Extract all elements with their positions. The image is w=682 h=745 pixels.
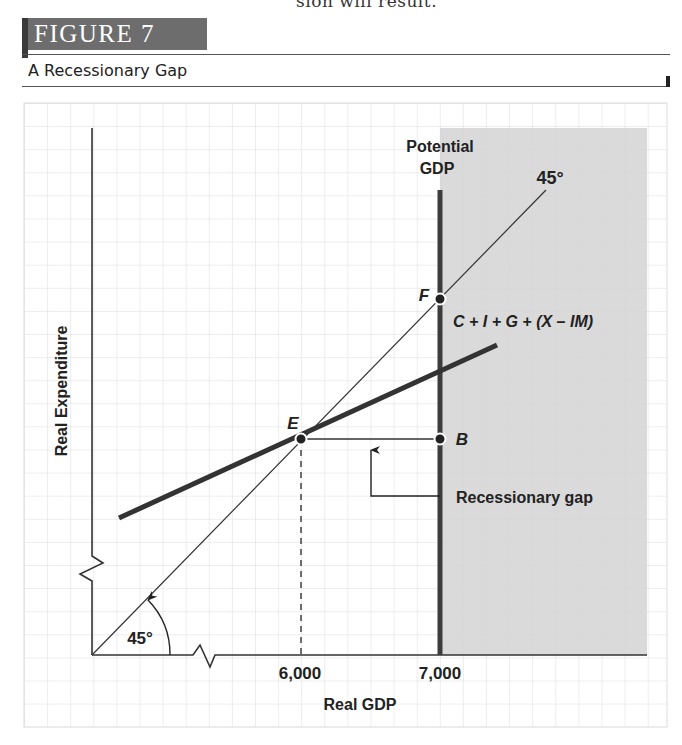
potential-label-line2: GDP: [420, 160, 455, 177]
x-tick-6000: 6,000: [279, 664, 322, 683]
aggregate-demand-label: C + I + G + (X – IM): [453, 313, 593, 330]
point-f-marker: [435, 294, 446, 305]
point-e-label: E: [287, 414, 299, 433]
45-degree-bottom-label: 45°: [127, 629, 153, 648]
x-axis-title: Real GDP: [324, 696, 397, 713]
potential-label-line1: Potential: [406, 138, 474, 155]
point-b-marker: [435, 434, 446, 445]
y-axis-title: Real Expenditure: [53, 326, 70, 457]
x-tick-7000: 7,000: [419, 664, 462, 683]
point-f-label: F: [419, 286, 430, 305]
shaded-region-beyond-potential: [440, 128, 647, 655]
chart: Potential GDP 45° 45° C + I + G + (X – I…: [0, 0, 682, 745]
recessionary-gap-label: Recessionary gap: [456, 489, 593, 506]
point-e-marker: [296, 434, 307, 445]
45-degree-top-label: 45°: [536, 168, 563, 188]
point-b-label: B: [456, 430, 468, 449]
